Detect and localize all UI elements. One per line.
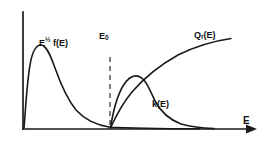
- curve-label-e-half-f-of-e: E½ f(E): [39, 39, 68, 48]
- curve-label-k-of-e: k(E): [152, 100, 169, 109]
- curve-label-ef-exponent: ½: [45, 36, 50, 43]
- threshold-label-e0: E0: [99, 32, 109, 41]
- curve-label-qr-of-e: Qr(E): [194, 31, 216, 40]
- x-axis-label: E: [243, 116, 250, 126]
- chart-figure: E½ f(E) E0 Qr(E) k(E) E: [0, 0, 264, 166]
- curve-label-qr-arg: (E): [204, 30, 216, 40]
- curve-label-ef-func: f(E): [50, 38, 68, 48]
- curve-label-qr-base: Q: [194, 30, 201, 40]
- threshold-label-subscript: 0: [105, 34, 109, 41]
- curve-qr-of-e: [111, 39, 232, 129]
- curve-label-qr-subscript: r: [201, 33, 204, 40]
- plot-canvas: [0, 0, 264, 166]
